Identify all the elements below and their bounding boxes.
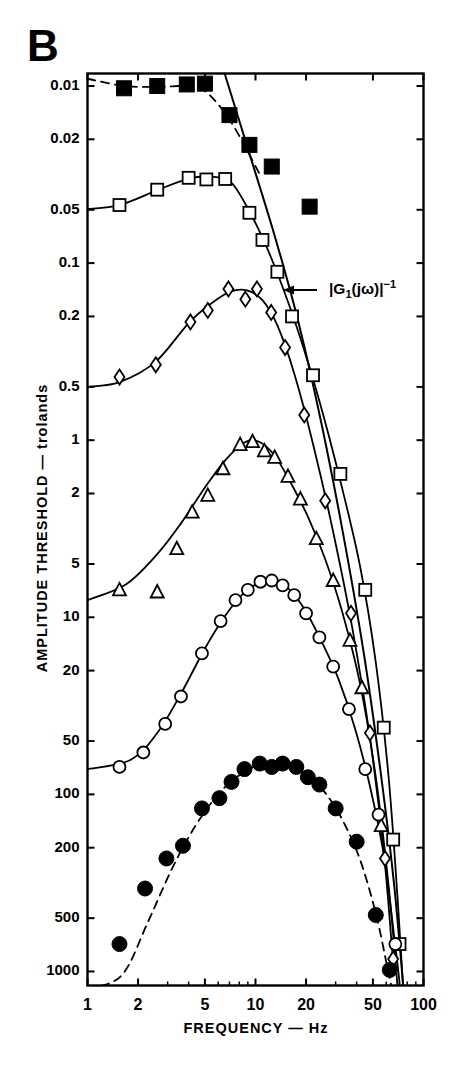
- data-point-open-diamond: [252, 281, 262, 296]
- data-point-filled-circle: [275, 756, 290, 771]
- y-tick-label: 0.05: [50, 200, 79, 217]
- data-point-open-circle: [159, 718, 171, 730]
- x-tick-label: 1: [83, 996, 92, 1013]
- y-tick-label: 2: [71, 483, 79, 500]
- data-point-open-circle: [327, 661, 339, 673]
- data-point-open-circle: [373, 809, 385, 821]
- x-tick-label: 100: [410, 996, 437, 1013]
- data-point-filled-circle: [312, 777, 327, 792]
- data-point-open-diamond: [203, 303, 213, 318]
- y-tick-label: 100: [54, 784, 79, 801]
- data-point-filled-circle: [224, 774, 239, 789]
- x-tick-labels: 125102050100: [83, 996, 437, 1013]
- y-tick-labels: 0.010.020.050.10.20.51251020501002005001…: [46, 76, 79, 978]
- data-point-open-circle: [215, 615, 227, 627]
- data-point-filled-circle: [382, 962, 397, 977]
- data-point-filled-square: [197, 76, 212, 91]
- series-curve-filled-square: [88, 79, 260, 173]
- chart-canvas: 0.010.020.050.10.20.51251020501002005001…: [0, 0, 460, 1070]
- data-point-filled-square: [179, 77, 194, 92]
- data-point-open-diamond: [346, 606, 356, 621]
- data-point-filled-square: [117, 81, 132, 96]
- data-point-open-circle: [277, 579, 289, 591]
- data-point-open-circle: [113, 761, 125, 773]
- data-point-open-square: [243, 207, 255, 219]
- data-point-open-square: [219, 173, 231, 185]
- data-point-filled-circle: [159, 851, 174, 866]
- data-point-open-circle: [137, 746, 149, 758]
- data-point-open-square: [200, 173, 212, 185]
- y-tick-label: 500: [54, 908, 79, 925]
- data-point-filled-square: [222, 108, 237, 123]
- data-point-filled-circle: [138, 881, 153, 896]
- data-point-filled-circle: [212, 791, 227, 806]
- data-point-filled-square: [302, 199, 317, 214]
- data-point-open-circle: [229, 594, 241, 606]
- y-tick-label: 0.1: [59, 253, 80, 270]
- data-point-open-square: [151, 184, 163, 196]
- figure-panel-b: B AMPLITUDE THRESHOLD — trolands FREQUEN…: [0, 0, 460, 1070]
- y-tick-label: 0.02: [50, 129, 79, 146]
- data-point-open-diamond: [240, 292, 250, 307]
- data-point-open-circle: [300, 607, 312, 619]
- annotation-label: |G1(jω)|−1: [329, 278, 396, 300]
- data-point-open-circle: [254, 576, 266, 588]
- x-tick-label: 50: [364, 996, 382, 1013]
- data-point-open-square: [286, 310, 298, 322]
- y-tick-label: 5: [71, 554, 79, 571]
- y-tick-label: 50: [63, 731, 80, 748]
- data-point-open-diamond: [320, 493, 330, 508]
- data-point-filled-circle: [328, 801, 343, 816]
- data-point-filled-circle: [349, 834, 364, 849]
- data-point-filled-circle: [112, 937, 127, 952]
- data-point-open-square: [378, 722, 390, 734]
- data-point-open-square: [387, 834, 399, 846]
- data-point-filled-square: [242, 137, 257, 152]
- data-point-open-circle: [288, 589, 300, 601]
- y-tick-label: 1000: [46, 961, 79, 978]
- data-point-open-circle: [359, 763, 371, 775]
- data-point-open-square: [359, 584, 371, 596]
- y-tick-label: 0.01: [50, 76, 79, 93]
- data-point-open-triangle: [327, 574, 340, 587]
- data-point-open-diamond: [365, 725, 375, 740]
- x-tick-label: 2: [134, 996, 143, 1013]
- data-point-open-triangle: [186, 505, 199, 517]
- data-point-filled-circle: [237, 762, 252, 777]
- y-tick-label: 0.5: [59, 377, 80, 394]
- y-tick-label: 200: [54, 838, 79, 855]
- data-point-open-diamond: [380, 851, 390, 866]
- annotation-g1-inverse: |G1(jω)|−1: [283, 278, 396, 300]
- y-tick-label: 10: [63, 607, 80, 624]
- data-point-filled-circle: [194, 801, 209, 816]
- x-tick-label: 5: [200, 996, 209, 1013]
- data-point-open-circle: [389, 938, 401, 950]
- data-point-open-triangle: [281, 469, 294, 482]
- data-point-open-circle: [313, 631, 325, 643]
- data-point-open-triangle: [355, 681, 368, 694]
- x-tick-label: 10: [247, 996, 265, 1013]
- data-point-open-square: [256, 234, 268, 246]
- data-point-open-circle: [242, 584, 254, 596]
- data-point-filled-circle: [368, 908, 383, 923]
- data-point-open-triangle: [151, 585, 164, 598]
- data-point-filled-square: [264, 159, 279, 174]
- data-point-open-square: [183, 172, 195, 184]
- data-point-open-triangle: [170, 542, 183, 555]
- data-point-open-circle: [343, 703, 355, 715]
- y-tick-label: 0.2: [59, 306, 80, 323]
- data-point-filled-circle: [289, 759, 304, 774]
- data-point-filled-circle: [175, 838, 190, 853]
- data-point-open-square: [271, 266, 283, 278]
- data-point-open-square: [307, 369, 319, 381]
- data-point-open-triangle: [234, 438, 247, 451]
- data-point-filled-square: [150, 78, 165, 93]
- data-point-open-circle: [196, 647, 208, 659]
- data-point-open-square: [334, 468, 346, 480]
- series-curve-filled-circle: [88, 763, 394, 994]
- data-point-open-circle: [175, 690, 187, 702]
- x-tick-label: 20: [297, 996, 315, 1013]
- y-tick-label: 1: [71, 430, 79, 447]
- data-point-open-square: [113, 199, 125, 211]
- data-markers: [112, 76, 406, 977]
